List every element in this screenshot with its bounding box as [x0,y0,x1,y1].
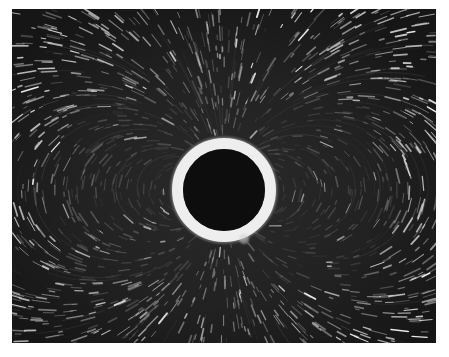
cylinder-core [183,149,265,231]
flow-photograph: Black-and-white streak photograph showin… [12,9,436,343]
streak-field [12,9,436,343]
cylinder [178,144,271,245]
glint-spot [239,234,249,244]
